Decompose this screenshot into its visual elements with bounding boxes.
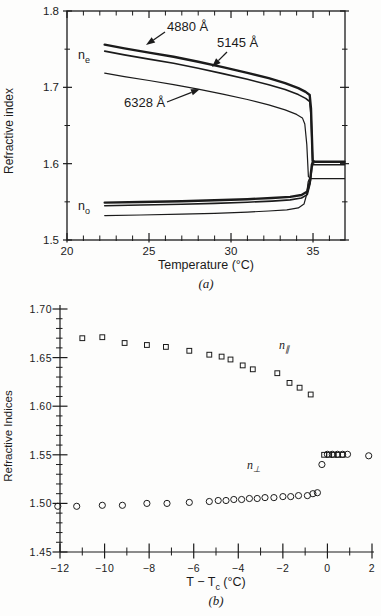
x-tick-label: 20 — [61, 245, 74, 257]
marker-circle-n-perpendicular — [319, 461, 325, 467]
annotation-arrowhead-label-6328 — [190, 89, 200, 95]
marker-circle-n-perpendicular — [164, 500, 170, 506]
y-tick-label: 1.60 — [30, 400, 52, 412]
chart-a-x-axis-title-text: Temperature (°C) — [158, 258, 254, 272]
marker-circle-n-perpendicular — [215, 497, 221, 503]
x-tick-label: −4 — [232, 562, 245, 574]
chart-a-y-axis-title: Refractive index — [2, 82, 16, 180]
marker-circle-n-perpendicular — [231, 496, 237, 502]
x-tick-label: 30 — [225, 245, 238, 257]
marker-circle-n-perpendicular — [254, 495, 260, 501]
chart-b-x-axis-title: T − Tc (°C) — [116, 575, 316, 592]
y-tick-label: 1.6 — [43, 158, 59, 170]
x-tick-label: 25 — [143, 245, 156, 257]
y-tick-label: 1.45 — [30, 546, 52, 558]
marker-circle-n-perpendicular — [206, 498, 212, 504]
marker-square-n-parallel — [145, 343, 150, 348]
marker-square-n-parallel — [207, 352, 212, 357]
marker-circle-n-perpendicular — [280, 494, 286, 500]
chart-b-caption: (b) — [196, 593, 236, 609]
x-tick-label: −10 — [95, 562, 114, 574]
y-tick-label: 1.70 — [30, 303, 52, 315]
curve-label-n-e: ne — [78, 49, 90, 65]
marker-square-n-parallel — [297, 385, 302, 390]
x-tick-label: −6 — [187, 562, 200, 574]
annotation-arrow-line-label-6328 — [167, 92, 192, 102]
marker-circle-n-perpendicular — [314, 490, 320, 496]
curve-no-4880 — [105, 162, 313, 203]
annotation-label-6328: 6328 Å — [124, 96, 165, 110]
curve-label-n-o: no — [78, 200, 90, 216]
marker-square-n-parallel — [240, 363, 245, 368]
x-tick-label: −12 — [50, 562, 69, 574]
curve-label-n-perp: n⊥ — [247, 459, 261, 475]
marker-square-n-parallel — [275, 371, 280, 376]
x-tick-label: −2 — [276, 562, 289, 574]
marker-square-n-parallel — [187, 348, 192, 353]
y-tick-label: 1.55 — [30, 449, 52, 461]
marker-circle-n-perpendicular — [271, 495, 277, 501]
marker-circle-n-perpendicular — [186, 499, 192, 505]
x-tick-label: 35 — [307, 245, 320, 257]
marker-circle-n-perpendicular — [288, 494, 294, 500]
annotation-arrow-line-label-4880 — [153, 32, 165, 40]
chart-b-x-axis-title-suffix: (°C) — [220, 575, 246, 589]
marker-square-n-parallel — [122, 341, 127, 346]
chart-a-caption: (a) — [186, 276, 226, 292]
x-tick-label: −8 — [143, 562, 156, 574]
marker-square-n-parallel — [287, 381, 292, 386]
marker-square-n-parallel — [80, 336, 85, 341]
marker-square-n-parallel — [308, 392, 313, 397]
marker-circle-n-perpendicular — [366, 453, 372, 459]
annotation-arrowhead-label-4880 — [146, 37, 155, 45]
y-tick-label: 1.8 — [43, 5, 59, 17]
y-tick-label: 1.50 — [30, 497, 52, 509]
y-tick-label: 1.7 — [43, 81, 59, 93]
marker-circle-n-perpendicular — [223, 497, 229, 503]
marker-circle-n-perpendicular — [144, 500, 150, 506]
chart-b-y-axis-title: Refractive Indices — [2, 383, 14, 489]
figure-refractive-indices: 202530351.51.61.71.8−12−10−8−6−4−2021.45… — [0, 0, 381, 616]
chart-b-x-axis-title-prefix: T − T — [186, 575, 215, 589]
x-tick-label: 2 — [369, 562, 375, 574]
chart-a-x-axis-title: Temperature (°C) — [106, 258, 306, 272]
marker-square-n-parallel — [228, 357, 233, 362]
marker-square-n-parallel — [219, 354, 224, 359]
marker-square-n-parallel — [100, 335, 105, 340]
curve-label-n-parallel: n∥ — [279, 339, 289, 355]
marker-circle-n-perpendicular — [119, 502, 125, 508]
charts-canvas: 202530351.51.61.71.8−12−10−8−6−4−2021.45… — [0, 0, 381, 616]
marker-circle-n-perpendicular — [99, 502, 105, 508]
y-tick-label: 1.65 — [30, 352, 52, 364]
marker-circle-n-perpendicular — [262, 495, 268, 501]
annotation-label-5145: 5145 Å — [217, 36, 258, 50]
marker-circle-n-perpendicular — [74, 503, 80, 509]
y-tick-label: 1.5 — [43, 234, 59, 246]
curve-ne-6328 — [105, 73, 345, 178]
marker-circle-n-perpendicular — [295, 493, 301, 499]
marker-square-n-parallel — [164, 345, 169, 350]
marker-circle-n-perpendicular — [246, 495, 252, 501]
annotation-arrow-line-label-5145 — [218, 52, 227, 61]
x-tick-label: 0 — [324, 562, 330, 574]
annotation-label-4880: 4880 Å — [167, 20, 208, 34]
marker-square-n-parallel — [250, 367, 255, 372]
marker-circle-n-perpendicular — [239, 496, 245, 502]
